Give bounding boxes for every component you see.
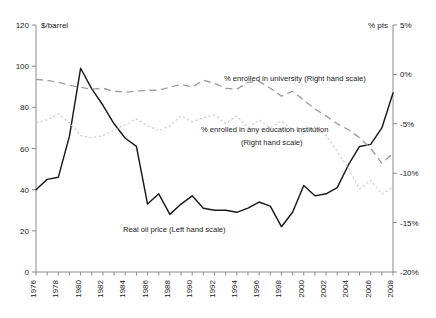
left-axis-tick-label: 0 [25,268,30,277]
right-axis-tick-label: -20% [400,268,419,277]
right-axis-unit-label: % pts [368,21,388,30]
x-axis-tick-label: 2006 [364,279,373,297]
x-axis-tick-label: 2004 [341,279,350,297]
x-axis-tick-label: 2002 [319,279,328,297]
left-axis-unit-label: $/barrel [41,21,68,30]
axes-group [36,25,393,272]
right-axis-tick-label: -5% [400,120,414,129]
x-axis-tick-label: 1994 [230,279,239,297]
x-axis-tick-labels: 1976197819801982198419861988199019921994… [29,279,395,297]
right-axis-ticks: -20%-15%-10%-5%0%5% [393,21,419,277]
series-annotation: Real oil price (Left hand scale) [123,225,226,234]
left-axis-tick-label: 20 [20,227,29,236]
left-axis-tick-label: 80 [20,103,29,112]
series-annotation: % enrolled in any education institution [201,125,329,134]
right-axis-tick-label: -15% [400,219,419,228]
x-axis-tick-label: 1982 [96,279,105,297]
series-annotation: % enrolled in university (Right hand sca… [224,74,366,83]
series-line-long-dash [36,79,393,163]
x-axis-tick-label: 1984 [118,279,127,297]
data-series-group [36,68,393,226]
x-axis-tick-label: 1988 [163,279,172,297]
right-axis-tick-label: 0% [400,70,412,79]
x-axis-tick-label: 1976 [29,279,38,297]
x-axis-tick-label: 1986 [141,279,150,297]
series-line-solid [36,68,393,226]
chart-container: 020406080100120 -20%-15%-10%-5%0%5% 1976… [0,0,436,318]
x-axis-tick-label: 2000 [297,279,306,297]
x-axis-tick-label: 1990 [185,279,194,297]
x-axis-tick-label: 1998 [274,279,283,297]
left-axis-tick-label: 60 [20,145,29,154]
x-axis-tick-label: 1996 [252,279,261,297]
x-axis-tick-label: 1978 [51,279,60,297]
left-axis-tick-label: 120 [16,21,30,30]
left-axis-tick-label: 100 [16,62,30,71]
left-axis-ticks: 020406080100120 [16,21,36,277]
x-axis-tick-label: 2008 [386,279,395,297]
series-annotation: (Right hand scale) [241,138,303,147]
left-axis-tick-label: 40 [20,186,29,195]
x-axis-tick-label: 1992 [208,279,217,297]
right-axis-tick-label: 5% [400,21,412,30]
right-axis-tick-label: -10% [400,169,419,178]
x-axis-ticks [36,272,393,276]
chart-canvas: 020406080100120 -20%-15%-10%-5%0%5% 1976… [0,0,436,318]
x-axis-tick-label: 1980 [74,279,83,297]
